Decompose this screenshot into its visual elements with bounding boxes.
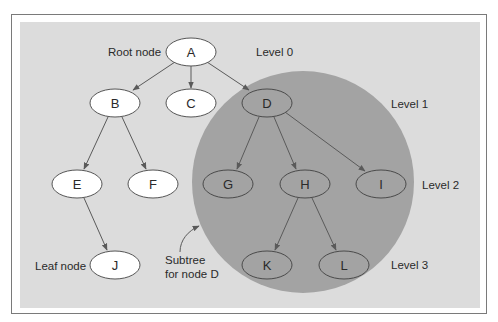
node-j: J	[90, 251, 140, 279]
edge-a-b	[133, 62, 175, 90]
node-g-label: G	[223, 177, 233, 192]
node-j-label: J	[112, 258, 119, 273]
edge-e-j	[84, 198, 107, 250]
level-2-label: Level 2	[422, 179, 459, 191]
level-1-label: Level 1	[391, 98, 428, 110]
node-h-label: H	[300, 177, 309, 192]
node-f: F	[128, 170, 178, 198]
node-f-label: F	[149, 177, 157, 192]
edge-b-e	[84, 117, 108, 169]
level-3-label: Level 3	[391, 259, 428, 271]
subtree-label-line1: Subtree	[165, 254, 205, 266]
node-h: H	[280, 170, 330, 198]
subtree-label-line2: for node D	[165, 268, 219, 280]
node-g: G	[203, 170, 253, 198]
root-node-label: Root node	[108, 46, 161, 58]
level-0-label: Level 0	[256, 46, 293, 58]
node-c: C	[166, 89, 216, 117]
node-k-label: K	[263, 258, 272, 273]
edge-b-f	[122, 117, 146, 169]
node-k: K	[242, 251, 292, 279]
node-b: B	[90, 89, 140, 117]
node-a-label: A	[187, 45, 196, 60]
node-i-label: I	[379, 177, 383, 192]
node-e: E	[52, 170, 102, 198]
node-c-label: C	[186, 96, 195, 111]
node-l: L	[319, 251, 369, 279]
leaf-node-label: Leaf node	[35, 260, 86, 272]
edge-a-d	[207, 62, 249, 90]
node-b-label: B	[111, 96, 120, 111]
node-d-label: D	[262, 96, 271, 111]
node-i: I	[356, 170, 406, 198]
node-l-label: L	[340, 258, 347, 273]
subtree-pointer-arrow	[180, 226, 199, 252]
node-a: A	[166, 38, 216, 66]
node-e-label: E	[73, 177, 82, 192]
node-d: D	[242, 89, 292, 117]
tree-diagram: A B C E F J D G H I K L	[0, 0, 498, 322]
